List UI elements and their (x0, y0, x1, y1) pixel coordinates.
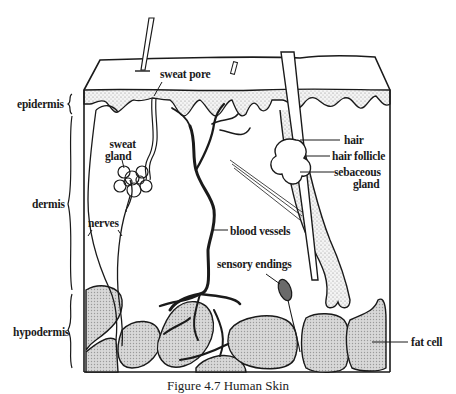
nerves-label: nerves (88, 217, 119, 229)
blood-vessels-label: blood vessels (230, 225, 290, 237)
skin-surface-top (84, 56, 390, 90)
sensory-endings-label: sensory endings (217, 258, 292, 270)
exiting-hair (141, 18, 154, 70)
sweat-gland-label-line2: gland (105, 150, 132, 162)
epidermis-band (84, 89, 390, 116)
epidermis-label: epidermis (17, 98, 64, 110)
leader-lines (88, 82, 408, 342)
figure-caption: Figure 4.7 Human Skin (0, 378, 456, 394)
sebaceous-gland-label-line2: gland (353, 178, 380, 190)
sebaceous-gland-label-line1: sebaceous (334, 166, 381, 178)
dermis-label: dermis (32, 198, 65, 210)
sweat-gland-label-line1: sweat (106, 138, 136, 150)
sensory-ending (276, 278, 295, 303)
hair-label: hair (344, 134, 364, 146)
hypodermis-label: hypodermis (13, 326, 69, 338)
hair-follicle-label: hair follicle (332, 150, 385, 162)
fat-cell-label: fat cell (411, 336, 442, 348)
sweat-pore-label: sweat pore (160, 68, 211, 80)
